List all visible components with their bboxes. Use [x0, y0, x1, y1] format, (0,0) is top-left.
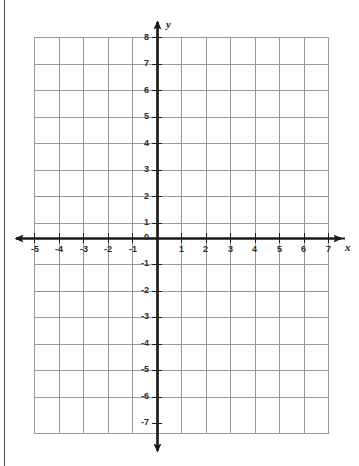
- y-tick-label-7: 7: [135, 59, 149, 68]
- x-tick-label-neg1: -1: [126, 245, 140, 254]
- graph-canvas: [0, 0, 359, 466]
- y-tick-label-1: 1: [135, 218, 149, 227]
- y-tick-label-neg7: -7: [132, 418, 149, 427]
- y-tick-label-2: 2: [135, 192, 149, 201]
- x-tick-label-4: 4: [248, 245, 261, 254]
- y-tick-label-neg1: -1: [132, 259, 149, 268]
- x-tick-label-6: 6: [297, 245, 310, 254]
- origin-label: 0: [135, 233, 149, 242]
- y-tick-label-4: 4: [135, 139, 149, 148]
- y-tick-label-8: 8: [135, 33, 149, 42]
- y-tick-label-neg4: -4: [132, 339, 149, 348]
- x-axis-label: x: [345, 242, 351, 253]
- y-tick-label-neg3: -3: [132, 312, 149, 321]
- y-axis-label: y: [166, 19, 171, 30]
- x-tick-label-neg3: -3: [77, 245, 91, 254]
- y-tick-label-neg2: -2: [132, 286, 149, 295]
- x-tick-label-2: 2: [199, 245, 212, 254]
- y-tick-label-neg5: -5: [132, 365, 149, 374]
- y-tick-label-6: 6: [135, 86, 149, 95]
- y-tick-label-5: 5: [135, 112, 149, 121]
- x-tick-label-neg2: -2: [101, 245, 115, 254]
- y-tick-label-neg6: -6: [132, 392, 149, 401]
- x-tick-label-3: 3: [224, 245, 237, 254]
- x-tick-label-5: 5: [273, 245, 286, 254]
- x-tick-label-neg4: -4: [52, 245, 66, 254]
- x-tick-label-neg5: -5: [28, 245, 42, 254]
- x-tick-label-7: 7: [322, 245, 335, 254]
- coordinate-grid-figure: 8 7 6 5 4 3 2 1 0 -1 -2 -3 -4 -5 -6 -7 -…: [0, 0, 359, 466]
- x-tick-label-1: 1: [175, 245, 188, 254]
- y-tick-label-3: 3: [135, 165, 149, 174]
